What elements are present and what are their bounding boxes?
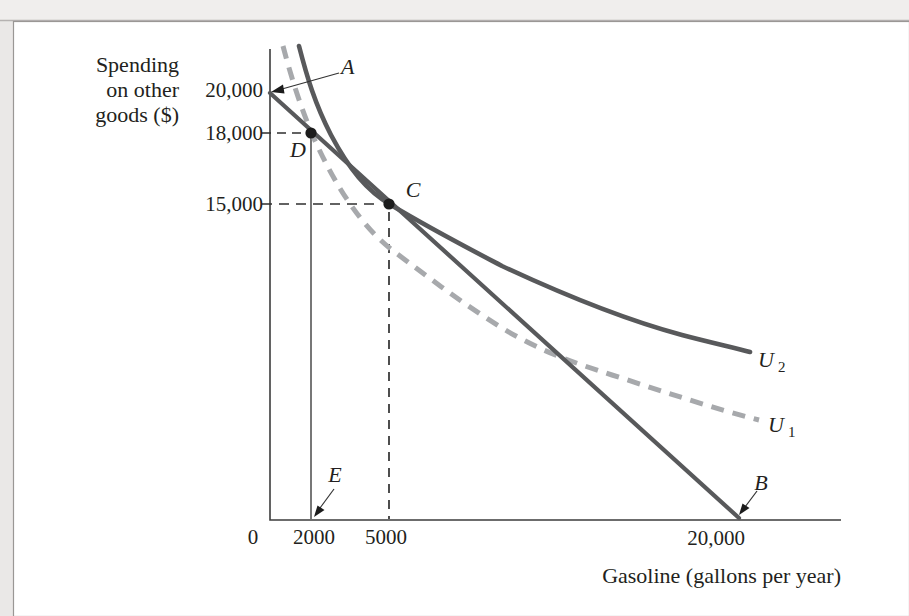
y-tick-15000: 15,000 [205, 192, 263, 216]
figure-page: Spending on other goods ($) 20,000 18,00… [0, 0, 909, 616]
label-point-C: C [406, 177, 421, 202]
label-point-B: B [754, 470, 767, 495]
label-curve-u1-sub: 1 [788, 424, 796, 440]
x-axis-title: Gasoline (gallons per year) [602, 563, 841, 588]
x-tick-2000: 2000 [293, 525, 335, 549]
label-curve-u2-main: U [758, 347, 776, 372]
point-dot-C [383, 198, 394, 209]
x-tick-20000: 20,000 [687, 526, 745, 550]
y-axis-title-line1: Spending [96, 52, 179, 77]
y-axis-title-line2: on other [106, 77, 179, 102]
y-tick-18000: 18,000 [205, 121, 263, 145]
label-curve-u1-main: U [768, 412, 786, 437]
label-point-A: A [339, 54, 355, 79]
label-point-E: E [327, 462, 342, 487]
point-dot-D [305, 127, 316, 138]
top-texture-strip [0, 0, 909, 20]
label-point-D: D [289, 137, 306, 162]
y-tick-20000: 20,000 [205, 78, 263, 102]
y-axis-title-line3: goods ($) [95, 102, 179, 127]
x-tick-5000: 5000 [365, 525, 407, 549]
x-tick-0: 0 [248, 525, 259, 549]
label-curve-u2-sub: 2 [778, 359, 786, 375]
